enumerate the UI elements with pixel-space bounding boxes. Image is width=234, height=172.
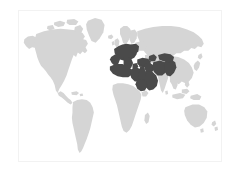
region-hispaniola (80, 94, 84, 97)
world-map-svg (19, 11, 221, 161)
highlight-cyprus (139, 64, 142, 67)
map-frame: Highlighted Other (18, 10, 222, 162)
world-map-widget: Highlighted Other (0, 0, 234, 172)
